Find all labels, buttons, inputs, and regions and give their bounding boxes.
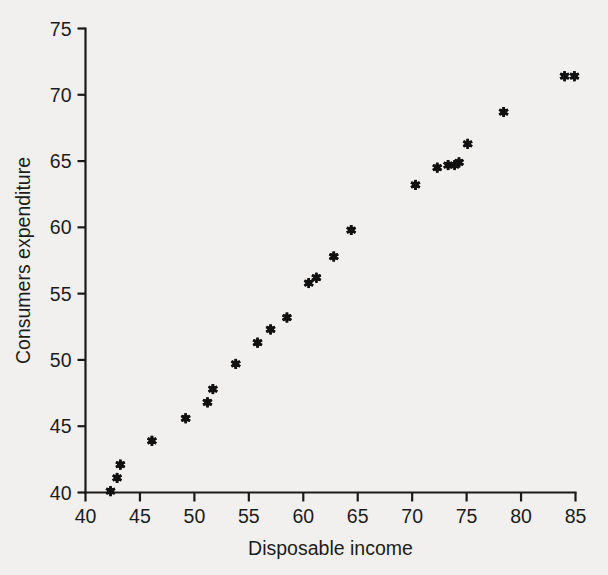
data-point	[329, 252, 338, 262]
data-point	[499, 107, 508, 117]
data-point	[266, 324, 275, 334]
data-point	[209, 384, 218, 394]
x-axis-tick-label: 40	[75, 505, 97, 527]
y-axis-tick-label: 60	[50, 216, 72, 238]
y-axis-tick-label: 75	[50, 18, 72, 40]
x-axis-tick-label: 80	[510, 505, 532, 527]
x-axis-tick-label: 60	[292, 505, 314, 527]
scatter-plot-canvas: 404550556065707540455055606570758085Disp…	[0, 0, 608, 575]
data-point	[181, 413, 190, 423]
data-point	[203, 397, 212, 407]
y-axis-tick-label: 40	[50, 482, 72, 504]
y-axis-tick-label: 55	[50, 283, 72, 305]
x-axis-tick-label: 50	[184, 505, 206, 527]
y-axis-tick-label: 70	[50, 84, 72, 106]
data-point	[433, 163, 442, 173]
data-point	[148, 436, 157, 446]
x-axis-title: Disposable income	[248, 537, 413, 559]
data-point	[463, 139, 472, 149]
data-point	[347, 225, 356, 235]
data-point	[116, 460, 125, 470]
x-axis-tick-label: 75	[456, 505, 478, 527]
x-axis-tick-label: 55	[238, 505, 260, 527]
x-axis-tick-label: 85	[565, 505, 587, 527]
data-point	[560, 71, 569, 81]
x-axis-tick-label: 45	[129, 505, 151, 527]
data-point-group	[106, 71, 579, 496]
chart-figure: 404550556065707540455055606570758085Disp…	[0, 0, 608, 575]
data-point	[253, 338, 262, 348]
x-axis-tick-label: 70	[401, 505, 423, 527]
data-point	[231, 359, 240, 369]
x-axis-tick-label: 65	[347, 505, 369, 527]
y-axis-tick-label: 50	[50, 349, 72, 371]
data-point	[106, 486, 115, 496]
data-point	[283, 313, 292, 323]
y-axis-tick-label: 65	[50, 150, 72, 172]
y-axis-title: Consumers expenditure	[12, 157, 34, 364]
data-point	[411, 180, 420, 190]
data-point	[113, 473, 122, 483]
y-axis-tick-label: 45	[50, 415, 72, 437]
data-point	[570, 71, 579, 81]
